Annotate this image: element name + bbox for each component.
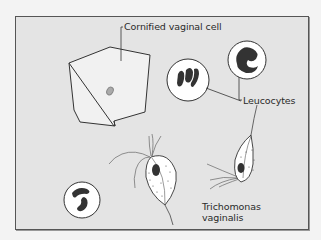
cornified-vaginal-cell	[69, 27, 150, 126]
leucocyte-icon	[64, 182, 100, 218]
label-trichomonas: Trichomonas	[202, 201, 261, 212]
label-vaginalis: vaginalis	[202, 212, 243, 223]
leucocyte-icon	[228, 41, 266, 79]
label-cornified-vaginal-cell: Cornified vaginal cell	[124, 21, 222, 32]
trichomonas-vaginalis-icon	[207, 105, 257, 189]
trichomonas-vaginalis-icon	[109, 134, 176, 225]
smear-illustration	[0, 0, 321, 240]
leucocyte-icon	[167, 59, 209, 101]
leucocyte-leader-lines	[206, 77, 242, 101]
label-leucocytes: Leucocytes	[243, 95, 295, 106]
